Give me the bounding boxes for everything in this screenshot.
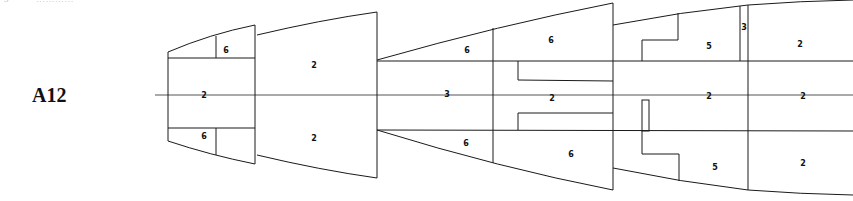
- section-2-top-edge: [257, 12, 377, 35]
- section-3-bottom-edge: [377, 130, 613, 190]
- section-1-bottom-edge: [168, 141, 255, 164]
- zone-diagram: 6 2 6 2 2 6 6 3 2 6 6 5 3 2: [0, 0, 853, 201]
- section-3-top-edge: [377, 3, 613, 60]
- zone-label: 2: [797, 40, 803, 49]
- zone-label: 6: [463, 139, 469, 148]
- zone-label: 2: [201, 91, 207, 100]
- section-3: 6 6 3 2 6 6: [377, 3, 853, 190]
- section-4: 5 3 2 5: [613, 5, 748, 190]
- zone-label: 5: [706, 42, 712, 51]
- zone-label: 2: [800, 159, 806, 168]
- section-4-upper-step: [642, 13, 678, 61]
- zone-label: 6: [201, 132, 207, 141]
- zone-label: 3: [741, 23, 747, 32]
- section-4-top-edge: [613, 5, 748, 25]
- section-3-lower-notch: [518, 113, 613, 130]
- zone-label: 2: [800, 92, 806, 101]
- section-2-bottom-edge: [257, 155, 377, 178]
- zone-label: 6: [464, 46, 470, 55]
- section-3-upper-notch: [518, 61, 613, 81]
- section-5-bottom-edge: [748, 190, 853, 195]
- section-5-top-edge: [748, 0, 853, 5]
- zone-label: 6: [223, 46, 229, 55]
- section-5: 2 2 2: [748, 0, 853, 195]
- lower-longitudinal-line: [377, 130, 853, 131]
- zone-label: 2: [706, 92, 712, 101]
- section-1-top-edge: [168, 25, 255, 52]
- zone-label: 2: [549, 94, 555, 103]
- zone-label: 5: [712, 163, 718, 172]
- section-4-bottom-edge: [613, 168, 748, 190]
- zone-label: 2: [311, 134, 317, 143]
- zone-label: 6: [548, 36, 554, 45]
- zone-label: 3: [444, 90, 450, 99]
- zone-label: 6: [568, 150, 574, 159]
- section-4-lower-step: [642, 131, 679, 181]
- zone-label: 2: [311, 61, 317, 70]
- section-4-small-rect: [642, 100, 649, 131]
